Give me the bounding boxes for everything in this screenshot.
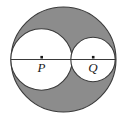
center-dot-q [92,56,95,59]
geometry-figure: P Q [0,0,126,119]
geometry-canvas: P Q [0,0,126,119]
label-q: Q [88,60,98,75]
center-dot-p [40,56,43,59]
label-p: P [37,60,46,75]
